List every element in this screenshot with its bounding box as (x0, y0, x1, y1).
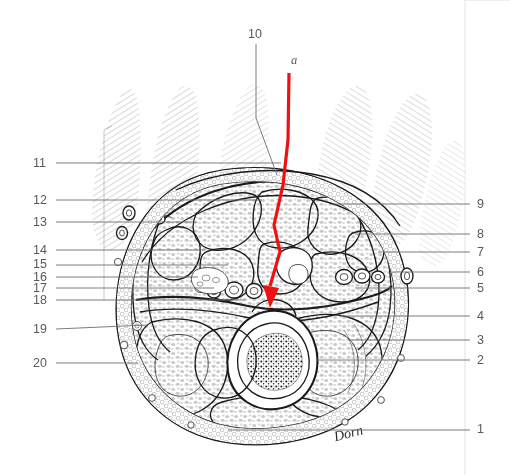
label-2: 2 (477, 353, 484, 367)
label-18: 18 (33, 293, 47, 307)
label-7: 7 (477, 245, 484, 259)
label-15: 15 (33, 257, 47, 271)
label-11: 11 (33, 156, 46, 170)
label-9: 9 (477, 197, 484, 211)
frame-guides (465, 0, 510, 475)
label-19: 19 (33, 322, 47, 336)
label-1: 1 (477, 422, 484, 436)
label-3: 3 (477, 333, 484, 347)
anatomy-figure: Dorn 11 12 (0, 0, 510, 475)
label-8: 8 (477, 227, 484, 241)
cross-section-body (114, 168, 413, 444)
label-20: 20 (33, 356, 47, 370)
label-14: 14 (33, 243, 47, 257)
label-5: 5 (477, 281, 484, 295)
marker-label-a: a (291, 53, 297, 67)
label-group-right: 9 8 7 6 5 4 3 2 1 (477, 197, 484, 436)
label-12: 12 (33, 193, 47, 207)
cross-section-illustration: Dorn 11 12 (0, 0, 510, 475)
label-group-left: 11 12 13 14 15 16 17 18 19 20 (33, 156, 47, 370)
label-10: 10 (248, 27, 262, 41)
label-6: 6 (477, 265, 484, 279)
label-4: 4 (477, 309, 484, 323)
label-13: 13 (33, 215, 47, 229)
